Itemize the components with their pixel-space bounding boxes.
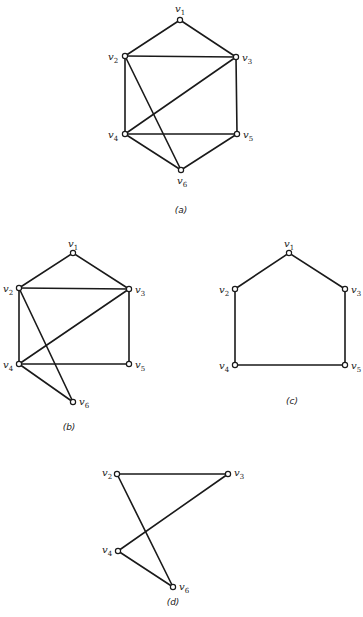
vertex-v2 bbox=[16, 285, 21, 290]
graph-b: v1v2v3v4v5v6(b) bbox=[3, 238, 145, 432]
vertex-label: v3 bbox=[135, 284, 145, 298]
vertex-v4 bbox=[122, 131, 127, 136]
edge-v4-v6 bbox=[19, 364, 73, 402]
caption-a: (a) bbox=[175, 205, 188, 215]
vertex-v2 bbox=[122, 53, 127, 58]
vertex-v5 bbox=[126, 361, 131, 366]
caption-b: (b) bbox=[63, 422, 76, 432]
vertex-label: v3 bbox=[242, 52, 252, 66]
vertex-v6 bbox=[170, 584, 175, 589]
graph-c: v1v2v3v4v5(c) bbox=[219, 238, 361, 406]
vertex-label: v2 bbox=[3, 283, 13, 297]
vertex-v1 bbox=[177, 17, 182, 22]
vertex-label: v3 bbox=[234, 467, 244, 481]
vertex-v6 bbox=[70, 399, 75, 404]
vertex-label: v2 bbox=[219, 284, 229, 298]
vertex-v5 bbox=[234, 131, 239, 136]
vertex-v3 bbox=[233, 54, 238, 59]
edges-b bbox=[19, 253, 129, 402]
vertex-label: v2 bbox=[108, 51, 118, 65]
vertex-label: v5 bbox=[135, 359, 145, 373]
graph-a: v1v2v3v4v5v6(a) bbox=[108, 3, 253, 215]
vertex-v4 bbox=[232, 362, 237, 367]
edge-v5-v6 bbox=[181, 134, 237, 170]
vertex-label: v4 bbox=[102, 544, 113, 558]
edge-v2-v3 bbox=[125, 56, 236, 57]
vertex-v2 bbox=[232, 286, 237, 291]
edge-v1-v2 bbox=[19, 253, 73, 288]
graph-d: v2v3v4v6(d) bbox=[102, 467, 244, 607]
vertex-v6 bbox=[178, 167, 183, 172]
vertex-label: v3 bbox=[351, 284, 361, 298]
vertex-label: v5 bbox=[351, 360, 361, 374]
edge-v3-v5 bbox=[236, 57, 237, 134]
edge-v2-v6 bbox=[117, 474, 173, 587]
vertex-label: v4 bbox=[219, 360, 230, 374]
vertex-label: v5 bbox=[243, 129, 253, 143]
edges-c bbox=[235, 253, 345, 365]
vertex-label: v4 bbox=[3, 359, 14, 373]
vertex-label: v1 bbox=[68, 238, 78, 252]
edge-v1-v3 bbox=[289, 253, 345, 289]
vertex-v4 bbox=[115, 548, 120, 553]
vertex-label: v4 bbox=[108, 129, 119, 143]
vertex-v4 bbox=[16, 361, 21, 366]
vertex-label: v6 bbox=[79, 396, 90, 410]
edges-d bbox=[117, 474, 228, 587]
edge-v1-v2 bbox=[235, 253, 289, 289]
edge-v3-v4 bbox=[118, 474, 228, 551]
caption-c: (c) bbox=[286, 396, 298, 406]
edge-v1-v3 bbox=[73, 253, 129, 289]
caption-d: (d) bbox=[167, 597, 180, 607]
vertex-label: v6 bbox=[179, 581, 190, 595]
edge-v2-v3 bbox=[19, 288, 129, 289]
vertex-label: v2 bbox=[102, 467, 112, 481]
graph-figure: v1v2v3v4v5v6(a)v1v2v3v4v5v6(b)v1v2v3v4v5… bbox=[0, 0, 363, 617]
vertex-v3 bbox=[342, 286, 347, 291]
vertex-v3 bbox=[225, 471, 230, 476]
edges-a bbox=[125, 20, 237, 170]
vertex-label: v1 bbox=[284, 238, 294, 252]
vertex-label: v6 bbox=[177, 175, 188, 189]
edge-v1-v2 bbox=[125, 20, 180, 56]
vertex-v3 bbox=[126, 286, 131, 291]
edge-v3-v4 bbox=[125, 57, 236, 134]
edge-v3-v4 bbox=[19, 289, 129, 364]
edge-v1-v3 bbox=[180, 20, 236, 57]
vertex-v5 bbox=[342, 362, 347, 367]
vertex-label: v1 bbox=[175, 3, 185, 17]
vertex-v2 bbox=[114, 471, 119, 476]
